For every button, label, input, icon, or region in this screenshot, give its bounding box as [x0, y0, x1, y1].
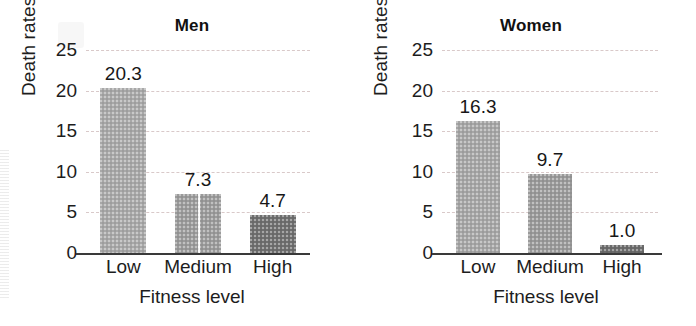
- panel-title-women: Women: [348, 16, 696, 36]
- y-tick-label-0: 0: [43, 242, 77, 264]
- x-tick-label-medium: Medium: [164, 256, 232, 278]
- bar-value-label-low: 16.3: [459, 96, 496, 118]
- x-tick-label-low: Low: [461, 256, 496, 278]
- bar-men-high: [250, 215, 296, 253]
- bar-women-low: [456, 121, 501, 253]
- plot-area-women: 0510152025 16.39.71.0 Fitness level LowM…: [442, 50, 658, 265]
- bar-value-label-low: 20.3: [105, 63, 142, 85]
- y-tick-label-5: 5: [399, 201, 433, 223]
- x-tick-label-high: High: [253, 256, 292, 278]
- plot-area-men: 0510152025 20.37.34.7 Fitness level LowM…: [86, 50, 310, 265]
- bar-group-women: 16.39.71.0: [442, 50, 658, 253]
- y-axis-title-men: Death rates*: [18, 0, 40, 96]
- bar-group-men: 20.37.34.7: [86, 50, 310, 253]
- bar-men-medium: [175, 194, 221, 253]
- y-tick-label-15: 15: [43, 120, 77, 142]
- y-tick-label-20: 20: [43, 79, 77, 101]
- bar-value-label-medium: 9.7: [537, 149, 563, 171]
- bar-men-low: [100, 88, 146, 253]
- x-tick-label-high: High: [602, 256, 641, 278]
- y-axis-title-women: Death rates*: [370, 0, 392, 96]
- bar-value-label-high: 1.0: [609, 220, 635, 242]
- y-tick-label-25: 25: [43, 39, 77, 61]
- y-tick-label-0: 0: [399, 242, 433, 264]
- bar-value-label-high: 4.7: [259, 190, 285, 212]
- y-tick-label-10: 10: [43, 160, 77, 182]
- bar-value-label-medium: 7.3: [185, 169, 211, 191]
- bar-women-medium: [528, 174, 573, 253]
- chart-panel-men: Men Death rates* 0510152025 20.37.34.7 F…: [0, 0, 348, 326]
- panel-title-men: Men: [0, 16, 348, 36]
- y-tick-label-5: 5: [43, 201, 77, 223]
- x-axis-line-men: [76, 253, 310, 255]
- chart-panel-women: Women Death rates* 0510152025 16.39.71.0…: [348, 0, 696, 326]
- x-tick-label-medium: Medium: [516, 256, 584, 278]
- y-tick-label-10: 10: [399, 160, 433, 182]
- y-tick-label-25: 25: [399, 39, 433, 61]
- x-axis-line-women: [432, 253, 662, 255]
- bar-women-high: [600, 245, 645, 253]
- bar-seam: [198, 194, 200, 253]
- x-axis-title-men: Fitness level: [80, 286, 304, 308]
- y-tick-label-20: 20: [399, 79, 433, 101]
- x-axis-title-women: Fitness level: [438, 286, 654, 308]
- y-tick-label-15: 15: [399, 120, 433, 142]
- x-tick-label-low: Low: [106, 256, 141, 278]
